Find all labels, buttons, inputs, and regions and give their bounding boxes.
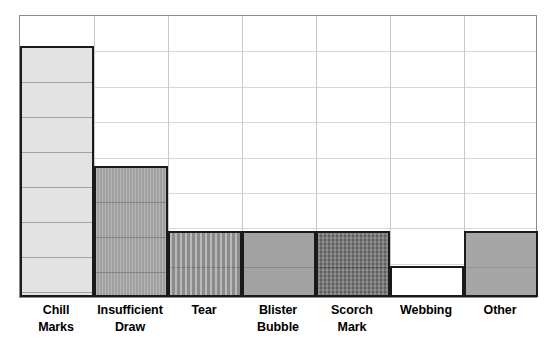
category-label-line1: Blister (259, 303, 297, 317)
bar-texture-scorch-mark (318, 233, 388, 295)
category-label-line1: Insufficient (97, 303, 162, 317)
bar-texture-webbing (392, 268, 462, 295)
bar-texture-insufficient-draw (96, 168, 166, 295)
category-label-other: Other (463, 302, 537, 319)
category-label-line2: Draw (93, 319, 167, 336)
category-label-blister-bubble: BlisterBubble (241, 302, 315, 336)
bar-other[interactable] (464, 231, 538, 297)
category-label-line2: Mark (315, 319, 389, 336)
category-label-line1: Scorch (331, 303, 373, 317)
bar-chart: ChillMarksInsufficientDrawTearBlisterBub… (0, 0, 557, 360)
bars-layer (20, 16, 536, 297)
category-label-tear: Tear (167, 302, 241, 319)
bar-texture-blister-bubble (244, 233, 314, 295)
plot-area (19, 15, 537, 298)
bar-tear[interactable] (168, 231, 242, 297)
bar-texture-other (466, 233, 536, 295)
category-label-scorch-mark: ScorchMark (315, 302, 389, 336)
category-label-line1: Chill (43, 303, 70, 317)
category-label-line1: Webbing (400, 303, 452, 317)
bar-texture-chill-marks (22, 48, 92, 295)
category-label-line2: Bubble (241, 319, 315, 336)
bar-webbing[interactable] (390, 266, 464, 297)
bar-chill-marks[interactable] (20, 46, 94, 297)
category-label-line2: Marks (19, 319, 93, 336)
bar-blister-bubble[interactable] (242, 231, 316, 297)
category-label-line1: Tear (191, 303, 216, 317)
bar-scorch-mark[interactable] (316, 231, 390, 297)
bar-insufficient-draw[interactable] (94, 166, 168, 297)
category-label-line1: Other (484, 303, 517, 317)
category-label-insufficient-draw: InsufficientDraw (93, 302, 167, 336)
category-label-webbing: Webbing (389, 302, 463, 319)
category-label-chill-marks: ChillMarks (19, 302, 93, 336)
bar-texture-tear (170, 233, 240, 295)
category-axis: ChillMarksInsufficientDrawTearBlisterBub… (19, 302, 537, 358)
